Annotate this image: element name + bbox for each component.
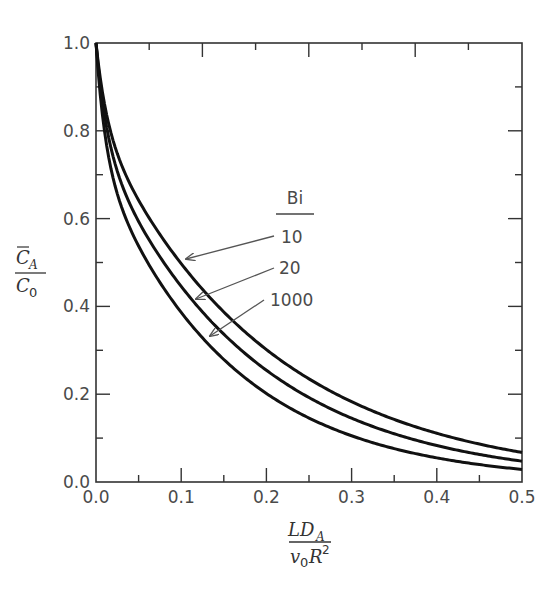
svg-text:0.8: 0.8 bbox=[63, 121, 90, 141]
svg-text:0: 0 bbox=[300, 555, 308, 570]
y-tick-labels: 0.00.20.40.60.81.0 bbox=[63, 33, 90, 492]
top-axis-ticks bbox=[149, 43, 468, 57]
x-tick-labels: 0.00.10.20.30.40.5 bbox=[82, 487, 535, 507]
svg-text:A: A bbox=[28, 258, 38, 272]
x-axis-label: LD A v 0 R 2 bbox=[287, 519, 331, 570]
svg-text:0.4: 0.4 bbox=[63, 296, 90, 316]
plot-frame bbox=[96, 43, 522, 482]
svg-text:0.3: 0.3 bbox=[338, 487, 365, 507]
svg-text:R: R bbox=[308, 546, 323, 567]
y-axis-label: C A C 0 bbox=[15, 247, 46, 300]
curve-bi-20 bbox=[96, 43, 522, 461]
curves bbox=[96, 43, 522, 469]
svg-text:0: 0 bbox=[29, 285, 37, 300]
svg-text:LD: LD bbox=[287, 519, 315, 540]
x-axis-ticks bbox=[139, 468, 480, 482]
legend-title: Bi bbox=[287, 188, 303, 208]
curve-gaps bbox=[200, 279, 222, 325]
svg-text:0.2: 0.2 bbox=[63, 384, 90, 404]
svg-text:2: 2 bbox=[322, 543, 330, 557]
svg-text:0.0: 0.0 bbox=[63, 472, 90, 492]
svg-text:0.5: 0.5 bbox=[508, 487, 535, 507]
svg-text:C: C bbox=[16, 275, 30, 296]
svg-text:0.4: 0.4 bbox=[423, 487, 450, 507]
legend-label-1000: 1000 bbox=[270, 290, 313, 310]
chart: 0.00.10.20.30.40.5 0.00.20.40.60.81.0 Bi… bbox=[0, 0, 560, 598]
svg-text:v: v bbox=[290, 546, 300, 567]
arrow-10 bbox=[186, 236, 274, 259]
legend-label-10: 10 bbox=[281, 227, 303, 247]
svg-text:0.2: 0.2 bbox=[253, 487, 280, 507]
svg-text:0.6: 0.6 bbox=[63, 209, 90, 229]
svg-text:C: C bbox=[16, 247, 30, 268]
svg-text:0.1: 0.1 bbox=[168, 487, 195, 507]
svg-text:1.0: 1.0 bbox=[63, 33, 90, 53]
legend-label-20: 20 bbox=[279, 258, 301, 278]
y-axis-ticks bbox=[96, 87, 522, 438]
curve-bi-10 bbox=[96, 43, 522, 452]
